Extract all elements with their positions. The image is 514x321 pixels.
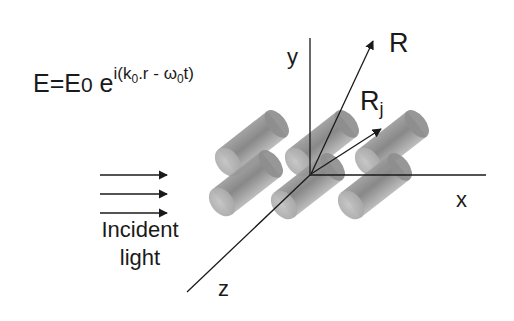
incident-label-line1: Incident [80, 216, 200, 244]
y-axis-label: y [287, 44, 298, 69]
diagram-canvas: y x z R Rj [0, 0, 514, 321]
incident-label-line2: light [80, 244, 200, 272]
vector-Rj-label: Rj [360, 86, 384, 119]
vector-R-label: R [389, 28, 409, 58]
z-axis-label: z [218, 276, 229, 301]
incident-light-label: Incident light [80, 216, 200, 272]
incident-field-equation: E=E0 ei(k0.r - ω0t) [33, 68, 194, 98]
x-axis-label: x [456, 187, 467, 212]
